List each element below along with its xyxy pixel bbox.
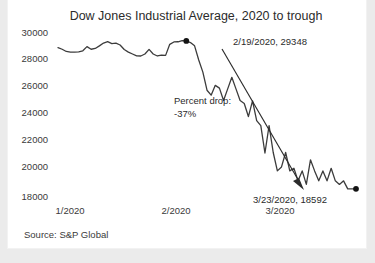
percent-drop-label: Percent drop: (174, 95, 231, 106)
source-label: Source: S&P Global (24, 229, 108, 240)
percent-drop-arrow (222, 49, 304, 190)
x-axis-tick-labels: 1/2020 2/2020 3/2020 (55, 205, 294, 216)
x-tick-label: 1/2020 (55, 205, 84, 216)
y-tick-label: 28000 (22, 53, 48, 64)
x-tick-label: 2/2020 (161, 205, 190, 216)
y-tick-label: 26000 (22, 80, 48, 91)
x-tick-label: 3/2020 (265, 205, 294, 216)
y-tick-label: 20000 (22, 161, 48, 172)
y-tick-label: 30000 (22, 27, 48, 38)
chart-card: Dow Jones Industrial Average, 2020 to tr… (8, 0, 366, 248)
y-tick-label: 22000 (22, 134, 48, 145)
peak-marker-dot (183, 38, 189, 44)
y-axis-tick-labels: 30000 28000 26000 24000 22000 20000 1800… (22, 27, 48, 202)
dow-jones-line-chart: Dow Jones Industrial Average, 2020 to tr… (8, 0, 366, 248)
percent-drop-value: -37% (174, 108, 197, 119)
series-line-dow-jones (58, 41, 356, 189)
y-tick-label: 18000 (22, 191, 48, 202)
trough-annotation-label: 3/23/2020, 18592 (253, 194, 327, 205)
trough-marker-dot (353, 186, 359, 192)
y-tick-label: 24000 (22, 107, 48, 118)
peak-annotation-label: 2/19/2020, 29348 (233, 36, 307, 47)
chart-title: Dow Jones Industrial Average, 2020 to tr… (70, 9, 323, 23)
source-caption: Source: S&P Global (24, 224, 108, 242)
